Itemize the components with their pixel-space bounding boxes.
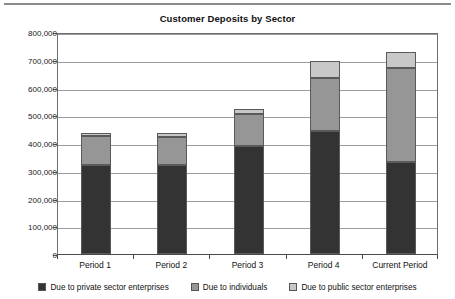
legend-label: Due to individuals: [203, 283, 268, 292]
y-axis-tick-label: 700,000: [5, 56, 57, 65]
legend-swatch-icon: [38, 283, 46, 291]
bar-segment[interactable]: [81, 133, 111, 136]
legend-item[interactable]: Due to public sector enterprises: [289, 283, 416, 292]
chart-legend: Due to private sector enterprisesDue to …: [0, 280, 455, 294]
x-axis-tick-mark: [133, 255, 134, 259]
bar-segment[interactable]: [157, 133, 187, 137]
legend-label: Due to private sector enterprises: [50, 283, 168, 292]
legend-label: Due to public sector enterprises: [301, 283, 416, 292]
bar-segment[interactable]: [81, 136, 111, 165]
y-axis-tick-label: 500,000: [5, 112, 57, 121]
bar-segment[interactable]: [234, 109, 264, 114]
x-axis: Period 1Period 2Period 3Period 4Current …: [57, 255, 438, 273]
y-axis-tick-label: 800,000: [5, 29, 57, 38]
legend-item[interactable]: Due to private sector enterprises: [38, 283, 168, 292]
legend-swatch-icon: [289, 283, 297, 291]
x-axis-tick-mark: [362, 255, 363, 259]
bar-segment[interactable]: [310, 78, 340, 131]
y-axis-tick-label: 0: [5, 251, 57, 260]
x-axis-tick-mark: [57, 255, 58, 259]
x-axis-tick-label: Current Period: [372, 260, 427, 270]
y-axis-tick-label: 300,000: [5, 167, 57, 176]
x-axis-tick-mark: [437, 255, 438, 259]
y-axis-tick-label: 600,000: [5, 84, 57, 93]
bar-segment[interactable]: [386, 52, 416, 68]
bar-segment[interactable]: [81, 165, 111, 254]
bar-segment[interactable]: [234, 114, 264, 146]
bar-segment[interactable]: [310, 131, 340, 254]
bar-segment[interactable]: [386, 162, 416, 254]
y-axis-tick-label: 100,000: [5, 223, 57, 232]
legend-swatch-icon: [191, 283, 199, 291]
x-axis-tick-label: Period 4: [308, 260, 340, 270]
x-axis-tick-label: Period 1: [79, 260, 111, 270]
gridline: [58, 34, 437, 35]
bar-segment[interactable]: [234, 146, 264, 254]
y-axis: 800,000700,000600,000500,000400,000300,0…: [0, 33, 57, 255]
x-axis-tick-mark: [209, 255, 210, 259]
bar-segment[interactable]: [310, 61, 340, 78]
bar-segment[interactable]: [157, 137, 187, 165]
y-axis-tick-label: 400,000: [5, 140, 57, 149]
gridline: [58, 62, 437, 63]
bar-segment[interactable]: [157, 165, 187, 254]
plot-area: [57, 33, 438, 255]
header-divider: [4, 3, 451, 5]
x-axis-tick-label: Period 3: [232, 260, 264, 270]
chart-figure: Customer Deposits by Sector 800,000700,0…: [0, 0, 455, 299]
legend-item[interactable]: Due to individuals: [191, 283, 268, 292]
x-axis-tick-label: Period 2: [155, 260, 187, 270]
gridline: [58, 90, 437, 91]
y-axis-tick-label: 200,000: [5, 195, 57, 204]
x-axis-tick-mark: [286, 255, 287, 259]
bar-segment[interactable]: [386, 68, 416, 162]
chart-title: Customer Deposits by Sector: [0, 13, 455, 24]
